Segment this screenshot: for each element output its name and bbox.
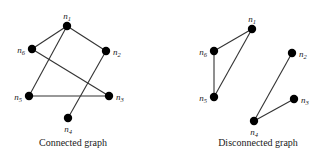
node-label-n1-connected-graph: n1 <box>63 11 71 22</box>
node-label-n6-disconnected-graph: n6 <box>199 47 208 58</box>
node-n3-disconnected-graph <box>290 95 298 103</box>
edge-n2-n4-connected-graph <box>68 51 106 118</box>
edge-n6-n3-connected-graph <box>32 49 109 96</box>
diagram-canvas: n1n2n3n4n5n6n1n2n3n4n5n6 Connected graph… <box>0 0 322 162</box>
disconnected-graph-caption: Disconnected graph <box>193 137 322 148</box>
node-n1-connected-graph <box>63 22 71 30</box>
node-n2-connected-graph <box>102 47 110 55</box>
node-label-n3-connected-graph: n3 <box>116 92 125 103</box>
node-label-n3-disconnected-graph: n3 <box>301 95 310 106</box>
node-label-n2-disconnected-graph: n2 <box>299 49 308 60</box>
node-n1-disconnected-graph <box>248 25 256 33</box>
edge-n5-n1-disconnected-graph <box>214 29 252 97</box>
node-n5-disconnected-graph <box>210 93 218 101</box>
node-n4-disconnected-graph <box>250 117 258 125</box>
edge-n1-n5-connected-graph <box>29 26 67 96</box>
edge-n1-n2-connected-graph <box>67 26 106 51</box>
node-n2-disconnected-graph <box>288 49 296 57</box>
node-label-n6-connected-graph: n6 <box>17 45 26 56</box>
node-label-n5-connected-graph: n5 <box>14 92 23 103</box>
node-label-n1-disconnected-graph: n1 <box>248 14 256 25</box>
node-n6-disconnected-graph <box>210 47 218 55</box>
node-label-n5-disconnected-graph: n5 <box>199 93 208 104</box>
edge-n1-n6-connected-graph <box>32 26 67 49</box>
node-n6-connected-graph <box>28 45 36 53</box>
node-label-n4-connected-graph: n4 <box>64 124 73 135</box>
node-n4-connected-graph <box>64 114 72 122</box>
node-n3-connected-graph <box>105 92 113 100</box>
connected-graph-caption: Connected graph <box>8 137 138 148</box>
node-label-n2-connected-graph: n2 <box>113 47 122 58</box>
node-n5-connected-graph <box>25 92 33 100</box>
